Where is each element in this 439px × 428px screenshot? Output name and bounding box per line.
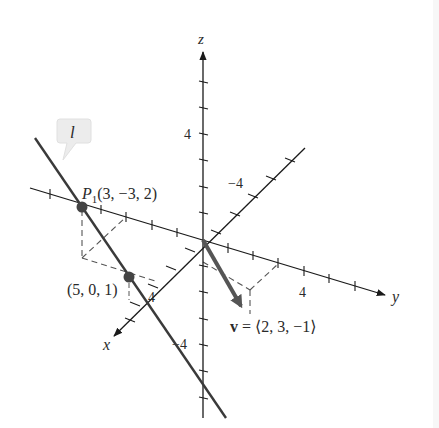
x-tick-label-4: 4 [148,290,155,305]
y-axis-label: y [390,288,400,306]
x-axis-label: x [102,336,110,353]
z-axis-label: z [197,31,204,47]
vector-v-label-symbol: v [230,318,238,335]
vector-v-label: v = ⟨2, 3, −1⟩ [230,318,317,335]
point-5-0-1 [124,272,135,283]
right-edge-strip [433,0,439,428]
p1-label: P1(3, −3, 2) [81,185,157,205]
y-tick-label-4: 4 [299,285,306,300]
point-p1 [77,202,88,213]
line-l-label: l [70,123,75,142]
p1-label-letter: P [81,185,92,202]
z-tick-label-4: 4 [184,127,191,142]
dashed-guides [82,210,278,314]
x-tick-label-neg4: −4 [228,176,243,191]
line-vector-3d-diagram: l z 4 −4 [0,0,439,428]
z-axis: z 4 −4 [172,31,208,418]
line-l-callout: l [57,119,91,160]
vector-v-label-components: = ⟨2, 3, −1⟩ [238,318,317,335]
p1-label-coords: (3, −3, 2) [97,185,157,203]
point-5-0-1-label: (5, 0, 1) [67,281,118,299]
